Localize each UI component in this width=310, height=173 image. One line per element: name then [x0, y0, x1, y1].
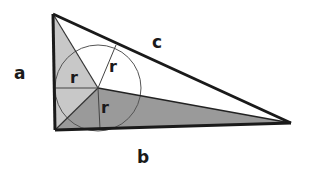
- incircle-diagram: a c b r r r: [0, 0, 310, 173]
- label-side-c: c: [152, 32, 162, 52]
- label-side-b: b: [137, 147, 149, 167]
- label-radius-c: r: [109, 57, 117, 76]
- side-a-line: [53, 14, 55, 130]
- label-radius-a: r: [70, 68, 78, 87]
- label-side-a: a: [14, 63, 25, 83]
- label-radius-b: r: [101, 98, 109, 117]
